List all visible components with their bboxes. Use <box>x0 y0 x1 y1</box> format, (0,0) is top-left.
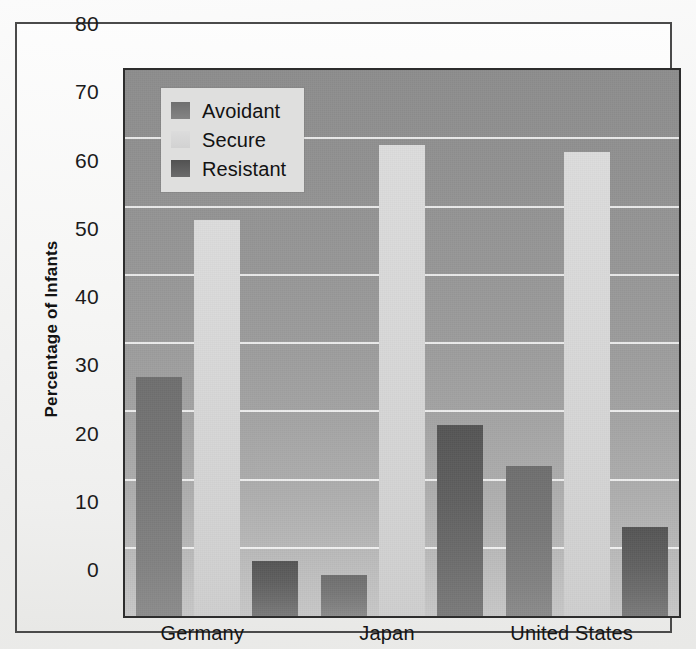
y-axis-title: Percentage of Infants <box>42 199 62 459</box>
legend-item-resistant: Resistant <box>171 154 286 183</box>
legend-item-label: Secure <box>202 130 266 150</box>
y-axis-tick-label: 0 <box>37 558 99 582</box>
bar-resistant-germany <box>252 561 298 616</box>
legend-item-secure: Secure <box>171 125 286 154</box>
plot-area: AvoidantSecureResistant <box>123 68 681 618</box>
bar-secure-japan <box>379 145 425 616</box>
chart-legend: AvoidantSecureResistant <box>161 88 304 192</box>
x-axis-tick-label: Germany <box>102 622 302 645</box>
bar-resistant-united-states <box>622 527 668 616</box>
legend-swatch-avoidant-icon <box>171 102 190 119</box>
bar-secure-united-states <box>564 152 610 616</box>
x-axis-tick-label: Japan <box>287 622 487 645</box>
legend-swatch-resistant-icon <box>171 160 190 177</box>
legend-swatch-secure-icon <box>171 131 190 148</box>
y-axis-tick-label: 10 <box>37 490 99 514</box>
bar-avoidant-japan <box>321 575 367 616</box>
legend-item-label: Resistant <box>202 159 286 179</box>
y-axis-tick-label: 70 <box>37 80 99 104</box>
figure-canvas: 01020304050607080 Percentage of Infants … <box>0 0 696 649</box>
y-axis-tick-label: 80 <box>37 12 99 36</box>
bar-resistant-japan <box>437 425 483 616</box>
figure-border: 01020304050607080 Percentage of Infants … <box>15 22 672 633</box>
y-axis-tick-label: 60 <box>37 149 99 173</box>
legend-item-label: Avoidant <box>202 101 280 121</box>
bar-secure-germany <box>194 220 240 616</box>
bar-avoidant-germany <box>136 377 182 616</box>
legend-item-avoidant: Avoidant <box>171 96 286 125</box>
x-axis-tick-label: United States <box>472 622 672 645</box>
bar-avoidant-united-states <box>506 466 552 616</box>
